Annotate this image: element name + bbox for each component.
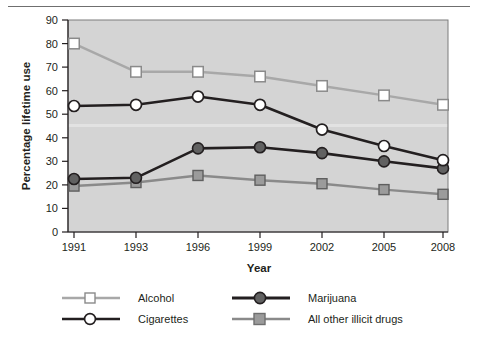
y-tick-label: 0 [52,226,58,238]
legend-marker-open-circle-icon [85,314,96,325]
x-tick-label: 2008 [431,241,455,253]
y-tick-label: 90 [46,14,58,26]
chart-legend: Alcohol Cigarettes Marijuana [62,292,403,325]
data-point-marijuana [379,156,390,167]
data-point-alcohol [317,81,328,92]
plot-background-band [68,124,448,127]
legend-label-alcohol: Alcohol [138,292,174,304]
data-point-alcohol [131,67,142,78]
y-tick-label: 50 [46,108,58,120]
data-point-all-other-illicit-drugs [193,170,203,180]
data-point-cigarettes [69,100,80,111]
data-point-alcohol [438,100,449,111]
figure: 90 80 70 60 50 40 30 20 10 0 [0,0,478,338]
legend-item-alcohol[interactable]: Alcohol [62,292,174,304]
y-tick-label: 20 [46,179,58,191]
data-point-cigarettes [131,99,142,110]
legend-marker-open-square-icon [85,293,95,303]
data-point-cigarettes [193,91,204,102]
data-point-all-other-illicit-drugs [255,175,265,185]
legend-item-all-other-illicit-drugs[interactable]: All other illicit drugs [232,313,403,325]
y-tick-label: 80 [46,38,58,50]
x-axis-title: Year [247,262,272,274]
legend-marker-filled-square-icon [254,314,265,325]
y-tick-label: 10 [46,202,58,214]
data-point-all-other-illicit-drugs [379,185,389,195]
x-tick-label: 2002 [310,241,334,253]
y-tick-label: 60 [46,85,58,97]
data-point-marijuana [317,148,328,159]
line-chart-svg: 90 80 70 60 50 40 30 20 10 0 [0,0,478,338]
y-tick-label: 40 [46,132,58,144]
x-tick-label: 1991 [62,241,86,253]
x-axis-ticks [74,232,443,238]
data-point-marijuana [131,172,142,183]
legend-label-all-other-illicit-drugs: All other illicit drugs [308,313,403,325]
legend-marker-filled-circle-icon [254,292,265,303]
legend-label-marijuana: Marijuana [308,292,357,304]
data-point-marijuana [69,174,80,185]
y-tick-label: 70 [46,61,58,73]
data-point-cigarettes [438,155,449,166]
x-tick-label: 1996 [186,241,210,253]
x-axis-tick-labels: 1991 1993 1996 1999 2002 2005 2008 [62,241,455,253]
data-point-alcohol [255,71,266,82]
data-point-alcohol [69,38,80,49]
data-point-all-other-illicit-drugs [438,189,448,199]
legend-label-cigarettes: Cigarettes [138,313,189,325]
x-tick-label: 1999 [248,241,272,253]
y-axis-ticks [62,20,68,232]
y-tick-label: 30 [46,155,58,167]
data-point-alcohol [193,67,204,78]
data-point-cigarettes [379,141,390,152]
x-tick-label: 1993 [124,241,148,253]
data-point-alcohol [379,90,390,101]
data-point-cigarettes [317,124,328,135]
data-point-marijuana [255,142,266,153]
y-axis-title: Percentage lifetime use [20,62,32,190]
data-point-cigarettes [255,99,266,110]
data-point-marijuana [193,143,204,154]
x-tick-label: 2005 [372,241,396,253]
legend-item-cigarettes[interactable]: Cigarettes [62,313,189,325]
data-point-all-other-illicit-drugs [317,179,327,189]
y-axis-tick-labels: 90 80 70 60 50 40 30 20 10 0 [46,14,58,238]
chart-canvas: 90 80 70 60 50 40 30 20 10 0 [0,0,478,338]
legend-item-marijuana[interactable]: Marijuana [232,292,357,304]
